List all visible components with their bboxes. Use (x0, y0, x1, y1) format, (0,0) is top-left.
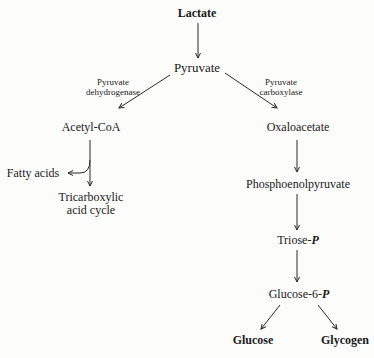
node-glycogen: Glycogen (321, 334, 369, 347)
node-tricarboxylic-acid-cycle: Tricarboxylic acid cycle (59, 191, 124, 217)
node-glucose-6-p-suffix: P (322, 287, 329, 301)
node-glucose-6-p: Glucose-6-P (269, 288, 330, 301)
node-glucose-6-p-prefix: Glucose-6- (269, 287, 322, 301)
enzyme-pyruvate-dehydrogenase: Pyruvate dehydrogenase (86, 77, 140, 97)
node-oxaloacetate: Oxaloacetate (267, 121, 330, 134)
node-lactate: Lactate (178, 7, 217, 20)
arrow-acetyl-coa-to-fatty-acids (68, 160, 90, 173)
node-phosphoenolpyruvate: Phosphoenolpyruvate (246, 178, 350, 191)
node-triose-p-suffix: P (311, 233, 318, 247)
arrow-glucose-6-p-to-glucose (261, 305, 280, 329)
node-pyruvate: Pyruvate (174, 61, 220, 74)
node-triose-p-prefix: Triose- (277, 233, 311, 247)
node-triose-p: Triose-P (277, 234, 319, 247)
node-glucose: Glucose (233, 334, 274, 347)
arrow-glucose-6-p-to-glycogen (318, 305, 337, 329)
node-acetyl-coa: Acetyl-CoA (62, 121, 121, 134)
node-fatty-acids: Fatty acids (7, 167, 59, 180)
enzyme-pyruvate-carboxylase: Pyruvate carboxylase (260, 77, 303, 97)
metabolic-pathway-diagram: Lactate Pyruvate Pyruvate dehydrogenase … (0, 0, 374, 358)
